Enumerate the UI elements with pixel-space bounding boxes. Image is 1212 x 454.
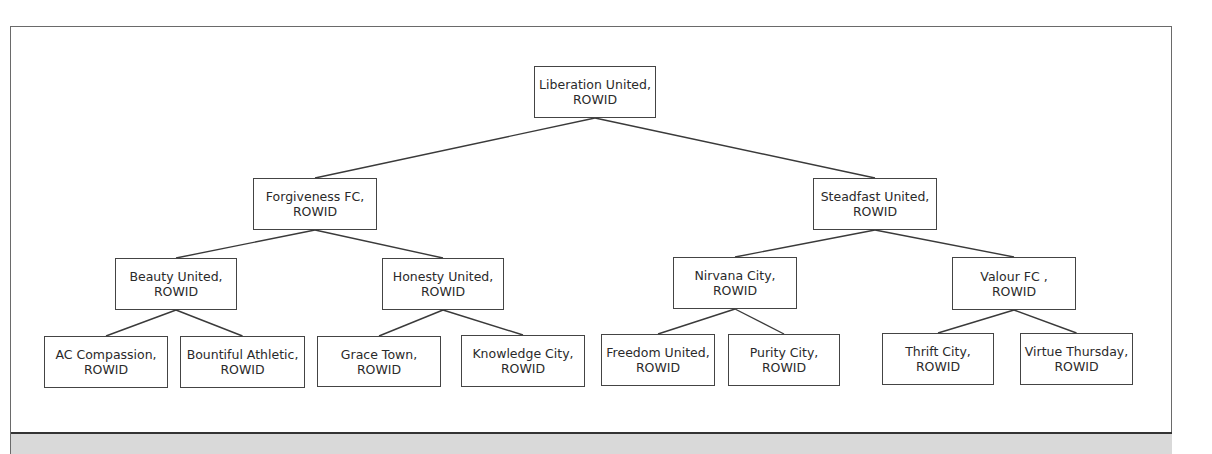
node-rowid: ROWID <box>421 284 465 299</box>
tree-node-n1: Forgiveness FC,ROWID <box>253 178 377 230</box>
tree-node-n10: Knowledge City,ROWID <box>461 335 585 387</box>
node-rowid: ROWID <box>853 204 897 219</box>
tree-node-n9: Grace Town,ROWID <box>317 336 441 387</box>
diagram-canvas: Liberation United,ROWIDForgiveness FC,RO… <box>0 0 1212 454</box>
node-name: Purity City, <box>750 345 819 360</box>
tree-node-n6: Valour FC ,ROWID <box>952 257 1076 310</box>
tree-node-n3: Beauty United,ROWID <box>115 258 237 310</box>
tree-node-root: Liberation United,ROWID <box>534 66 656 118</box>
node-rowid: ROWID <box>573 92 617 107</box>
node-name: Beauty United, <box>129 269 222 284</box>
node-rowid: ROWID <box>154 284 198 299</box>
tree-node-n12: Purity City,ROWID <box>728 334 840 386</box>
tree-node-n7: AC Compassion,ROWID <box>44 336 168 388</box>
tree-node-n14: Virtue Thursday,ROWID <box>1020 333 1133 385</box>
node-rowid: ROWID <box>293 204 337 219</box>
tree-node-n11: Freedom United,ROWID <box>601 334 715 386</box>
node-rowid: ROWID <box>84 362 128 377</box>
node-name: Thrift City, <box>905 344 971 359</box>
tree-node-n13: Thrift City,ROWID <box>882 333 994 385</box>
node-name: Valour FC , <box>980 269 1047 284</box>
node-name: Freedom United, <box>606 345 709 360</box>
node-name: Steadfast United, <box>821 189 930 204</box>
node-name: Virtue Thursday, <box>1025 344 1128 359</box>
node-name: Grace Town, <box>341 347 417 362</box>
node-name: Nirvana City, <box>694 268 775 283</box>
node-name: Forgiveness FC, <box>266 189 364 204</box>
caption-band <box>11 432 1172 454</box>
tree-node-n5: Nirvana City,ROWID <box>673 257 797 309</box>
node-rowid: ROWID <box>501 361 545 376</box>
node-name: Knowledge City, <box>472 346 573 361</box>
node-name: Liberation United, <box>539 77 651 92</box>
node-name: Honesty United, <box>393 269 494 284</box>
tree-node-n8: Bountiful Athletic,ROWID <box>180 336 305 388</box>
node-rowid: ROWID <box>1054 359 1098 374</box>
tree-node-n4: Honesty United,ROWID <box>382 258 504 310</box>
tree-node-n2: Steadfast United,ROWID <box>813 178 937 230</box>
node-rowid: ROWID <box>713 283 757 298</box>
node-name: AC Compassion, <box>55 347 156 362</box>
node-rowid: ROWID <box>916 359 960 374</box>
node-rowid: ROWID <box>220 362 264 377</box>
node-rowid: ROWID <box>762 360 806 375</box>
node-name: Bountiful Athletic, <box>187 347 299 362</box>
node-rowid: ROWID <box>636 360 680 375</box>
node-rowid: ROWID <box>992 284 1036 299</box>
node-rowid: ROWID <box>357 362 401 377</box>
